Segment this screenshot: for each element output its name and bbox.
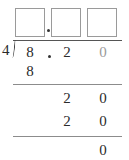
divisor: 4 — [2, 42, 10, 58]
dividend-ones: 8 — [24, 44, 36, 60]
subtraction-line-1 — [13, 84, 122, 85]
division-bar — [13, 40, 122, 41]
remainder: 0 — [97, 142, 109, 158]
quotient-box-hundredths[interactable] — [87, 8, 117, 37]
dividend-tenths: 2 — [61, 44, 73, 60]
dividend-hundredths-placeholder: 0 — [97, 44, 109, 60]
dividend-decimal-point — [48, 55, 51, 58]
quotient-box-tenths[interactable] — [51, 8, 81, 37]
step1-ones: 8 — [24, 63, 36, 79]
step3-tenths: 2 — [61, 113, 73, 129]
quotient-box-ones[interactable] — [15, 8, 45, 37]
quotient-decimal-point — [47, 29, 50, 32]
long-division-bracket — [9, 40, 15, 58]
step2-tenths: 2 — [61, 90, 73, 106]
step2-hundredths: 0 — [97, 90, 109, 106]
step3-hundredths: 0 — [97, 113, 109, 129]
subtraction-line-2 — [13, 136, 122, 137]
